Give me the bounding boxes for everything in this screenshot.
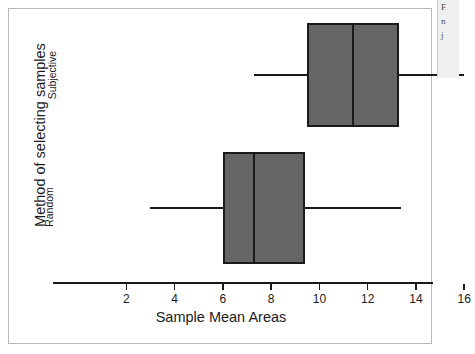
whisker-upper [305,207,402,209]
x-axis-tick-mark [319,284,321,290]
whisker-lower [254,74,307,76]
x-axis-tick-label: 14 [401,292,431,306]
x-axis-title: Sample Mean Areas [9,309,433,325]
x-axis-tick-label: 10 [304,292,334,306]
x-axis-tick-label: 6 [208,292,238,306]
boxplot-chart: Method of selecting samples Subjective R… [9,9,433,345]
x-axis-tick-label: 2 [111,292,141,306]
page-edge-fragment: Fnj [437,0,459,78]
x-axis-tick-label: 4 [160,292,190,306]
y-axis-category-label-random: Random [43,167,55,247]
x-axis-tick-mark [174,284,176,290]
median-line [352,23,354,127]
x-axis-tick-mark [222,284,224,290]
x-axis-tick-mark [367,284,369,290]
x-axis-tick-label: 8 [256,292,286,306]
whisker-lower [150,207,222,209]
chart-card: Method of selecting samples Subjective R… [8,8,432,344]
x-axis-tick-mark [126,284,128,290]
page-edge-fragment-line: n [438,14,459,28]
median-line [253,152,255,264]
page-edge-fragment-line: j [438,28,459,42]
x-axis-tick-mark [415,284,417,290]
x-axis-tick-label: 16 [449,292,475,306]
x-axis-line [53,282,433,284]
x-axis-tick-label: 12 [353,292,383,306]
x-axis-tick-mark [270,284,272,290]
y-axis-category-label-subjective: Subjective [46,30,58,120]
box-iqr-rect [223,152,305,264]
page-edge-fragment-line: F [438,0,459,14]
x-axis-tick-mark [463,284,465,290]
